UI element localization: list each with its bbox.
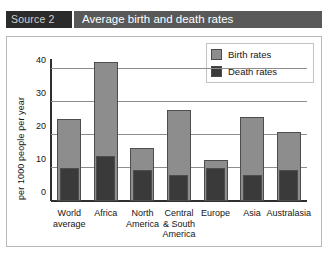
bar-death-rate: [96, 156, 115, 201]
chart-title: Average birth and death rates: [74, 11, 322, 28]
plot-area: 010203040 World averageAfricaNorth Ameri…: [51, 69, 307, 201]
legend-label-birth: Birth rates: [228, 49, 271, 60]
bar-group: Australasia: [270, 69, 307, 201]
chart-header: Source 2 Average birth and death rates: [6, 11, 322, 28]
y-tick-label-0: 0: [41, 188, 46, 197]
y-tick-label-40: 40: [36, 56, 46, 65]
y-tick-label-30: 30: [36, 89, 46, 98]
y-axis-title: per 1000 people per year: [16, 97, 26, 200]
source-tag: Source 2: [6, 11, 72, 28]
legend-swatch-birth-icon: [211, 49, 222, 60]
bar-death-rate: [206, 168, 225, 201]
bar-group: Central & South America: [161, 69, 198, 201]
bar-death-rate: [243, 175, 262, 201]
chart-frame: Birth rates Death rates per 1000 people …: [6, 36, 322, 247]
bar-death-rate: [60, 168, 79, 201]
y-tick-label-10: 10: [36, 155, 46, 164]
legend-item-birth-rates: Birth rates: [211, 47, 309, 62]
y-tick-label-20: 20: [36, 122, 46, 131]
bar-death-rate: [279, 170, 298, 201]
bar-group: World average: [51, 69, 88, 201]
bar-group: North America: [124, 69, 161, 201]
bar-group: Europe: [197, 69, 234, 201]
bar-death-rate: [133, 170, 152, 201]
bar-group: Africa: [88, 69, 125, 201]
bar-death-rate: [169, 175, 188, 201]
x-axis-label: Australasia: [266, 208, 312, 219]
bar-group: Asia: [234, 69, 271, 201]
